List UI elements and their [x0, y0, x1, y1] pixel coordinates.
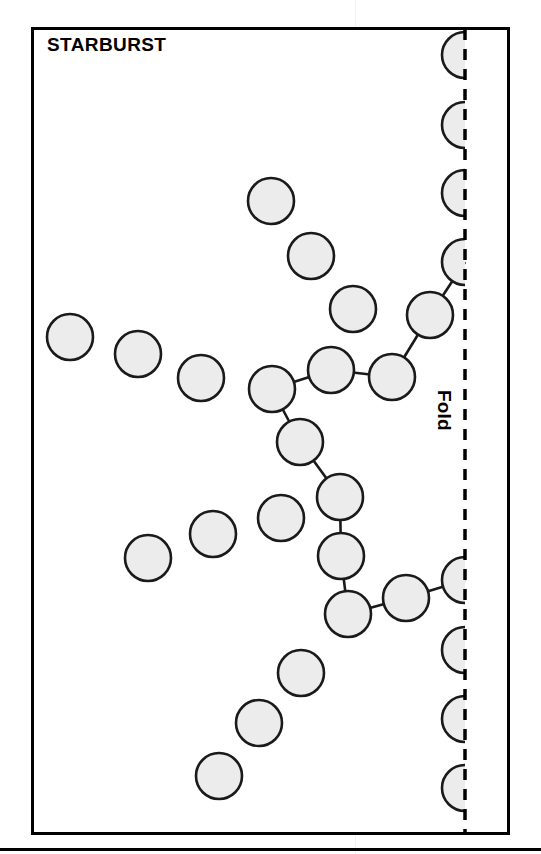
topology-node[interactable]: [325, 591, 371, 637]
topology-node[interactable]: [115, 331, 161, 377]
topology-node[interactable]: [258, 495, 304, 541]
topology-node[interactable]: [196, 753, 242, 799]
topology-canvas: [0, 0, 541, 854]
topology-node[interactable]: [318, 533, 364, 579]
topology-node[interactable]: [317, 474, 363, 520]
fold-label: Fold: [433, 390, 455, 431]
topology-node[interactable]: [190, 511, 236, 557]
topology-node-clipped[interactable]: [442, 102, 488, 148]
topology-node[interactable]: [407, 292, 453, 338]
topology-node[interactable]: [308, 347, 354, 393]
topology-node[interactable]: [383, 575, 429, 621]
diagram-page: STARBURST Fold: [0, 0, 541, 854]
topology-node[interactable]: [278, 650, 324, 696]
topology-node[interactable]: [248, 178, 294, 224]
topology-node[interactable]: [288, 233, 334, 279]
topology-node[interactable]: [178, 355, 224, 401]
topology-node[interactable]: [249, 366, 295, 412]
topology-node[interactable]: [125, 535, 171, 581]
topology-node[interactable]: [369, 354, 415, 400]
topology-node[interactable]: [277, 419, 323, 465]
nodes-layer: [47, 32, 488, 811]
topology-node[interactable]: [236, 700, 282, 746]
bottom-rule: [0, 848, 541, 851]
topology-node[interactable]: [47, 314, 93, 360]
page-title: STARBURST: [47, 34, 166, 56]
topology-node[interactable]: [330, 286, 376, 332]
